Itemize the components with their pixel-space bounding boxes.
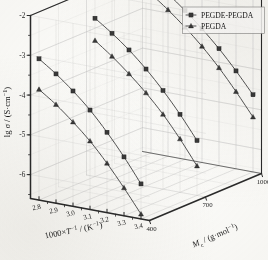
data-point-square [127, 48, 131, 52]
data-point-square [251, 93, 255, 97]
data-point-square [178, 112, 182, 116]
legend-label: PEGDA [201, 22, 227, 31]
x-tick-label-0: 2.8 [32, 203, 43, 213]
three-d-line-chart: -2-3-4-5-62.82.93.03.13.23.33.4400700100… [0, 0, 268, 260]
legend-label: PEGDE-PEGDA [201, 11, 254, 20]
z-axis-title: Mc / (g·mol−1) [190, 221, 240, 251]
x-tick-label-5: 3.3 [117, 218, 128, 228]
data-point-square [195, 138, 199, 142]
data-point-square [122, 155, 126, 159]
x-tick-label-1: 2.9 [49, 206, 60, 216]
data-point-square [93, 16, 97, 20]
data-point-square [37, 57, 41, 61]
y-tick-label-2: -4 [19, 92, 25, 100]
x-tick-label-6: 3.4 [134, 222, 145, 232]
data-point-square [234, 69, 238, 73]
data-point-square [189, 13, 193, 17]
data-point-square [105, 130, 109, 134]
y-axis-title: lg σ / (S·cm−1) [0, 87, 12, 137]
y-tick-label-1: -3 [19, 52, 25, 60]
data-point-square [144, 67, 148, 71]
z-tick-label-0: 400 [146, 225, 157, 232]
data-point-square [161, 88, 165, 92]
x-tick-label-2: 3.0 [66, 209, 77, 219]
data-point-square [217, 47, 221, 51]
y-tick-label-3: -5 [19, 131, 25, 139]
data-point-triangle [37, 87, 42, 92]
chart-figure: -2-3-4-5-62.82.93.03.13.23.33.4400700100… [0, 0, 268, 260]
data-point-square [54, 72, 58, 76]
z-tick-label-2: 1000 [257, 178, 268, 185]
z-tick-label-1: 700 [202, 201, 213, 208]
data-point-square [110, 31, 114, 35]
data-point-square [88, 108, 92, 112]
data-point-triangle [93, 38, 98, 43]
y-tick-label-4: -6 [19, 171, 25, 179]
data-point-square [71, 89, 75, 93]
legend-layer[interactable]: PEGDE-PEGDAPEGDA [183, 7, 265, 34]
data-point-square [139, 182, 143, 186]
y-tick-label-0: -2 [19, 12, 25, 20]
x-axis-title: 1000×T−1 / (K−1) [43, 218, 103, 241]
